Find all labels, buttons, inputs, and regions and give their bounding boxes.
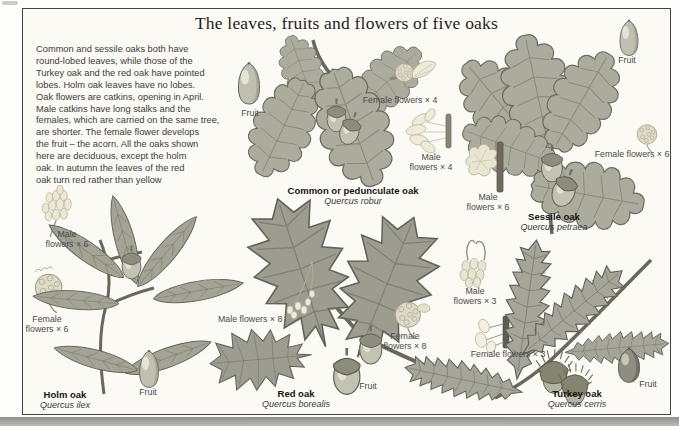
holm-oak-female-flowers-label: Female flowers × 6: [10, 314, 84, 334]
red-oak-name: Red oak: [234, 388, 358, 399]
book-page: { "page": { "title": "The leaves, fruits…: [0, 0, 679, 426]
sessile-oak-latin-name: Quercus petraea: [492, 222, 616, 233]
red-oak-name-block: Red oak Quercus borealis: [234, 388, 358, 410]
holm-oak-fruit-label: Fruit: [126, 387, 170, 397]
acorn-icon: [140, 350, 159, 387]
common-oak-male-flowers-illustration: [406, 110, 458, 154]
sessile-oak-male-flowers-label: Male flowers × 6: [452, 192, 524, 212]
catkin-stalk: [446, 114, 451, 148]
turkey-oak-latin-name: Quercus cerris: [515, 399, 639, 410]
holm-oak-fruit-illustration: [135, 348, 163, 390]
holm-oak-male-flowers-label: Male flowers × 6: [30, 229, 104, 249]
red-oak-female-flowers-illustration: [384, 296, 432, 336]
red-oak-male-flowers-illustration: [278, 260, 328, 318]
common-oak-name-block: Common or pedunculate oak Quercus robur: [258, 185, 448, 207]
scan-artifact: [2, 1, 18, 5]
common-oak-name: Common or pedunculate oak: [258, 185, 448, 196]
holm-leaf-icon: [152, 273, 245, 308]
sessile-oak-name: Sessile oak: [492, 211, 616, 222]
turkey-oak-male-flowers-label: Male flowers × 3: [438, 286, 512, 306]
holm-oak-latin-name: Quercus ilex: [10, 400, 120, 411]
common-oak-fruit-label: Fruit: [228, 108, 272, 118]
red-oak-latin-name: Quercus borealis: [234, 399, 358, 410]
holm-oak-name-block: Holm oak Quercus ilex: [10, 389, 120, 411]
common-oak-female-flowers-illustration: [388, 57, 438, 97]
sessile-oak-name-block: Sessile oak Quercus petraea: [492, 211, 616, 233]
turkey-oak-name: Turkey oak: [515, 388, 639, 399]
page-title: The leaves, fruits and flowers of five o…: [22, 13, 671, 34]
sessile-oak-fruit-label: Fruit: [607, 55, 647, 65]
turkey-oak-female-flowers-label: Female flowers × 3: [466, 349, 550, 359]
sessile-oak-female-flowers-label: Female flowers × 6: [592, 149, 672, 159]
turkey-oak-name-block: Turkey oak Quercus cerris: [515, 388, 639, 410]
catkin-stalk: [497, 142, 503, 192]
intro-paragraph: Common and sessile oaks both have round-…: [36, 44, 219, 187]
acorn-icon: [618, 348, 639, 383]
red-oak-male-flowers-label: Male flowers × 8: [218, 314, 302, 324]
common-oak-female-flowers-label: Female flowers × 4: [358, 95, 442, 105]
sessile-oak-male-flowers-illustration: [464, 140, 510, 196]
male-flower-petals: [405, 107, 437, 155]
red-oak-female-flowers-label: Female flowers × 8: [368, 331, 442, 351]
common-oak-latin-name: Quercus robur: [258, 196, 448, 207]
holm-oak-name: Holm oak: [10, 389, 120, 400]
common-oak-male-flowers-label: Male flowers × 4: [396, 152, 466, 172]
flower-bumps: [35, 267, 53, 272]
page-edge-shadow: [0, 417, 679, 426]
female-flower-icon: [395, 63, 413, 90]
